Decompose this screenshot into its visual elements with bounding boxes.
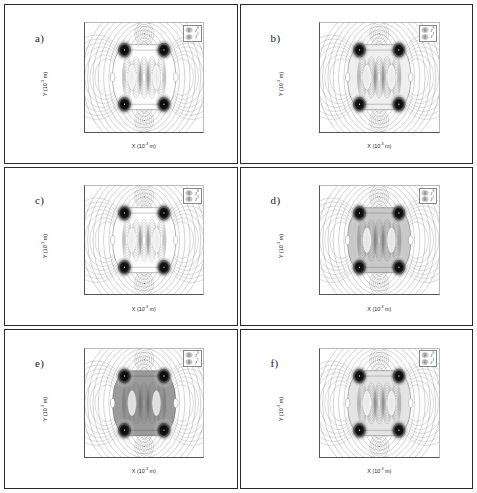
y-axis-label-text: Y (10-3 m) bbox=[42, 72, 48, 96]
x-axis-label-text: X (10-3 m) bbox=[367, 468, 391, 474]
y-axis-label: Y (10-3 m) bbox=[276, 235, 283, 259]
y-axis-label-text: Y (10-3 m) bbox=[42, 235, 48, 259]
concentric-rings-icon bbox=[185, 27, 193, 33]
legend: J0J1 bbox=[183, 25, 201, 42]
panel-label: f) bbox=[271, 357, 279, 369]
plot-area: 1050-5-10-10-50510J0J1 bbox=[84, 185, 204, 295]
legend: J0J1 bbox=[183, 188, 201, 205]
legend-label: J1 bbox=[430, 359, 434, 365]
panel-label: a) bbox=[35, 32, 44, 44]
legend-entry: J1 bbox=[421, 196, 434, 202]
concentric-rings-icon bbox=[421, 190, 429, 196]
concentric-rings-icon bbox=[185, 359, 193, 365]
y-axis-label-text: Y (10-3 m) bbox=[277, 235, 283, 259]
legend: J0J1 bbox=[419, 188, 437, 205]
contour-figure: a)Y (10-3 m)X (10-3 m)1050-5-10-10-50510… bbox=[0, 0, 477, 493]
legend-entry: J1 bbox=[421, 33, 434, 39]
x-axis-label: X (10-3 m) bbox=[367, 142, 391, 149]
panel-label: e) bbox=[35, 357, 44, 369]
panel-label: d) bbox=[271, 194, 281, 206]
y-axis-label-text: Y (10-3 m) bbox=[277, 72, 283, 96]
y-axis-label: Y (10-3 m) bbox=[41, 397, 48, 421]
concentric-rings-icon bbox=[421, 34, 429, 40]
legend-entry: J1 bbox=[185, 196, 198, 202]
legend-label: J1 bbox=[430, 33, 434, 39]
panel-b: b)Y (10-3 m)X (10-3 m)1050-5-10-10-50510… bbox=[240, 4, 474, 164]
x-axis-label: X (10-3 m) bbox=[367, 305, 391, 312]
x-axis-label-text: X (10-3 m) bbox=[132, 306, 156, 312]
y-axis-label-text: Y (10-3 m) bbox=[42, 397, 48, 421]
legend-label: J1 bbox=[195, 196, 199, 202]
y-axis-label: Y (10-3 m) bbox=[41, 235, 48, 259]
concentric-rings-icon bbox=[185, 196, 193, 202]
legend-label: J1 bbox=[430, 196, 434, 202]
y-axis-label: Y (10-3 m) bbox=[276, 72, 283, 96]
x-axis-label-text: X (10-3 m) bbox=[367, 306, 391, 312]
plot-area: 1050-5-10-10-50510J0J1 bbox=[84, 348, 204, 458]
plot-area: 1050-5-10-10-50510J0J1 bbox=[319, 185, 439, 295]
legend-entry: J1 bbox=[421, 359, 434, 365]
legend-entry: J1 bbox=[185, 33, 198, 39]
legend: J0J1 bbox=[419, 350, 437, 367]
x-axis-label-text: X (10-3 m) bbox=[132, 143, 156, 149]
panel-label: c) bbox=[35, 194, 44, 206]
plot-area: 1050-5-10-10-50510J0J1 bbox=[319, 348, 439, 458]
y-axis-label-text: Y (10-3 m) bbox=[277, 397, 283, 421]
x-axis-label: X (10-3 m) bbox=[367, 468, 391, 475]
concentric-rings-icon bbox=[185, 190, 193, 196]
legend: J0J1 bbox=[419, 25, 437, 42]
concentric-rings-icon bbox=[421, 196, 429, 202]
x-axis-label-text: X (10-3 m) bbox=[132, 468, 156, 474]
panel-f: f)Y (10-3 m)X (10-3 m)1050-5-10-10-50510… bbox=[240, 329, 474, 489]
legend-entry: J1 bbox=[185, 359, 198, 365]
concentric-rings-icon bbox=[421, 359, 429, 365]
panel-grid: a)Y (10-3 m)X (10-3 m)1050-5-10-10-50510… bbox=[0, 0, 477, 493]
panel-a: a)Y (10-3 m)X (10-3 m)1050-5-10-10-50510… bbox=[4, 4, 238, 164]
plot-area: 1050-5-10-10-50510J0J1 bbox=[319, 22, 439, 132]
legend: J0J1 bbox=[183, 350, 201, 367]
panel-c: c)Y (10-3 m)X (10-3 m)1050-5-10-10-50510… bbox=[4, 167, 238, 327]
concentric-rings-icon bbox=[421, 352, 429, 358]
plot-area: 1050-5-10-10-50510J0J1 bbox=[84, 22, 204, 132]
panel-label: b) bbox=[271, 32, 281, 44]
y-axis-label: Y (10-3 m) bbox=[41, 72, 48, 96]
legend-label: J1 bbox=[195, 359, 199, 365]
x-axis-label-text: X (10-3 m) bbox=[367, 143, 391, 149]
concentric-rings-icon bbox=[421, 27, 429, 33]
concentric-rings-icon bbox=[185, 34, 193, 40]
x-axis-label: X (10-3 m) bbox=[132, 468, 156, 475]
legend-label: J1 bbox=[195, 33, 199, 39]
concentric-rings-icon bbox=[185, 352, 193, 358]
x-axis-label: X (10-3 m) bbox=[132, 305, 156, 312]
panel-e: e)Y (10-3 m)X (10-3 m)1050-5-10-10-50510… bbox=[4, 329, 238, 489]
panel-d: d)Y (10-3 m)X (10-3 m)1050-5-10-10-50510… bbox=[240, 167, 474, 327]
x-axis-label: X (10-3 m) bbox=[132, 142, 156, 149]
y-axis-label: Y (10-3 m) bbox=[276, 397, 283, 421]
